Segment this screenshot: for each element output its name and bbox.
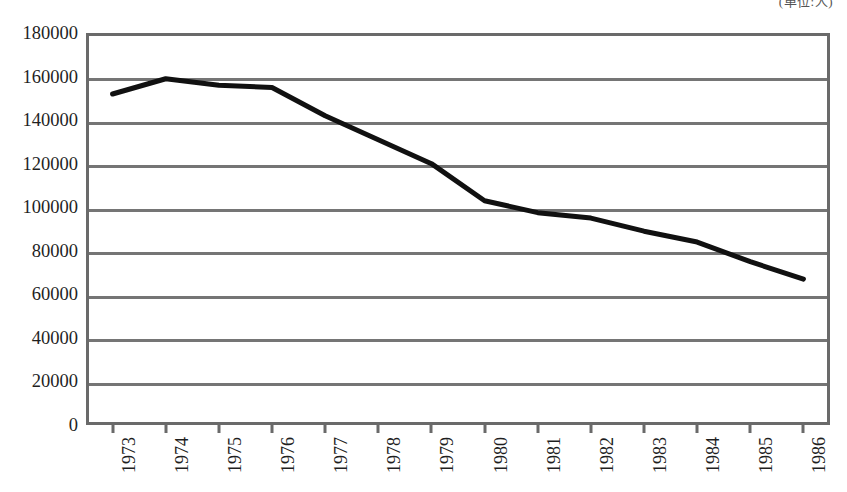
x-axis-tick-label: 1976 (279, 437, 297, 473)
x-axis-tick-label: 1984 (704, 437, 722, 473)
y-axis-tick-label: 160000 (0, 67, 78, 86)
x-axis-tick-mark (696, 425, 699, 433)
x-axis-tick-mark (111, 425, 114, 433)
x-axis-tick-label: 1980 (492, 437, 510, 473)
x-axis-tick-label: 1981 (545, 437, 563, 473)
x-axis-tick-mark (749, 425, 752, 433)
gridline (89, 383, 827, 386)
x-axis-tick-mark (217, 425, 220, 433)
y-axis-tick-label: 20000 (0, 372, 78, 391)
gridline (89, 252, 827, 255)
x-axis-tick-mark (164, 425, 167, 433)
plot-area (86, 33, 830, 425)
gridline (89, 339, 827, 342)
gridline (89, 122, 827, 125)
y-axis-tick-label: 100000 (0, 198, 78, 217)
x-axis-tick-mark (271, 425, 274, 433)
x-axis-tick-label: 1979 (438, 437, 456, 473)
x-axis-tick-mark (536, 425, 539, 433)
gridline (89, 296, 827, 299)
x-axis-tick-label: 1986 (810, 437, 828, 473)
x-axis-tick-label: 1973 (120, 437, 138, 473)
unit-annotation: (単位:人) (779, 0, 833, 10)
x-axis-tick-label: 1978 (385, 437, 403, 473)
x-axis: 1973197419751976197719781979198019811982… (86, 425, 830, 492)
x-axis-tick-mark (643, 425, 646, 433)
x-axis-tick-mark (589, 425, 592, 433)
y-axis-tick-label: 60000 (0, 285, 78, 304)
x-axis-tick-mark (377, 425, 380, 433)
x-axis-tick-label: 1974 (173, 437, 191, 473)
gridline (89, 209, 827, 212)
x-axis-tick-mark (324, 425, 327, 433)
x-axis-tick-mark (483, 425, 486, 433)
y-axis-tick-label: 180000 (0, 24, 78, 43)
chart-page: (単位:人) 020000400006000080000100000120000… (0, 0, 847, 492)
y-axis-tick-label: 80000 (0, 242, 78, 261)
y-axis-tick-label: 140000 (0, 111, 78, 130)
x-axis-tick-label: 1977 (332, 437, 350, 473)
gridline (89, 78, 827, 81)
gridline (89, 165, 827, 168)
x-axis-tick-mark (430, 425, 433, 433)
y-axis: 0200004000060000800001000001200001400001… (0, 33, 78, 425)
y-axis-tick-label: 40000 (0, 329, 78, 348)
x-axis-tick-label: 1982 (598, 437, 616, 473)
y-axis-tick-label: 0 (0, 416, 78, 435)
x-axis-tick-mark (802, 425, 805, 433)
x-axis-tick-label: 1975 (226, 437, 244, 473)
x-axis-tick-label: 1985 (757, 437, 775, 473)
y-axis-tick-label: 120000 (0, 154, 78, 173)
x-axis-tick-label: 1983 (651, 437, 669, 473)
